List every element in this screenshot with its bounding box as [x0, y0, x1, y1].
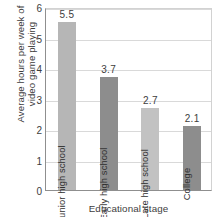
y-axis-tick-label: 2 — [26, 125, 42, 136]
bars-layer: 5.5Junior high school3.7Early high schoo… — [46, 9, 211, 190]
y-axis-title-line-1: Average hours per week of — [15, 6, 27, 123]
y-axis-tick-label: 4 — [26, 64, 42, 75]
bar-group: 3.7Early high school — [100, 7, 118, 190]
y-axis-tick-label: 1 — [26, 155, 42, 166]
plot-area: 5.5Junior high school3.7Early high schoo… — [45, 8, 212, 191]
bar-category-label: College — [181, 168, 192, 201]
y-axis-tick-labels: 0123456 — [26, 0, 42, 195]
bar-group: 2.7Late high school — [141, 7, 159, 190]
bar-group: 2.1College — [183, 7, 201, 190]
y-axis-tick-label: 0 — [26, 186, 42, 197]
y-axis-tick-label: 3 — [26, 94, 42, 105]
bar-value-label: 3.7 — [101, 64, 116, 75]
bar-chart: Average hours per week of video game pla… — [0, 0, 222, 217]
y-axis-tick-label: 5 — [26, 33, 42, 44]
bar-value-label: 2.1 — [185, 113, 200, 124]
x-axis-title: Educational stage — [45, 203, 212, 214]
bar-group: 5.5Junior high school — [58, 7, 76, 190]
bar[interactable]: 3.7Early high school — [100, 77, 118, 190]
bar-value-label: 2.7 — [143, 95, 158, 106]
bar[interactable]: 5.5Junior high school — [58, 22, 76, 190]
bar-value-label: 5.5 — [59, 9, 74, 20]
bar[interactable]: 2.7Late high school — [141, 108, 159, 190]
bar[interactable]: 2.1College — [183, 126, 201, 190]
y-axis-tick-label: 6 — [26, 3, 42, 14]
